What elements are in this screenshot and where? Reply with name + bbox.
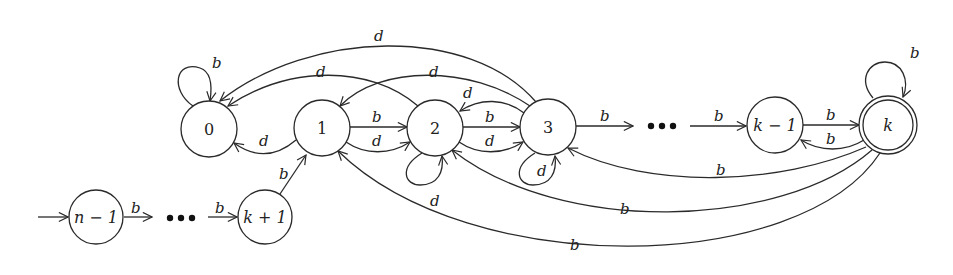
edge-label: b bbox=[910, 44, 920, 62]
edge-label: b bbox=[570, 236, 580, 254]
state-k+1: k + 1 bbox=[238, 190, 292, 244]
state-label: 3 bbox=[543, 118, 553, 137]
edge-label: d bbox=[463, 84, 473, 102]
edge-label: b bbox=[826, 130, 836, 148]
state-label: k bbox=[883, 116, 893, 135]
edge-k-2 bbox=[452, 150, 872, 212]
edge-k-1 bbox=[338, 151, 880, 246]
edge-label: d bbox=[485, 132, 495, 150]
state-k-1: k − 1 bbox=[747, 97, 803, 153]
edge-label: b bbox=[131, 199, 141, 217]
edge-label: b bbox=[600, 107, 610, 125]
state-label: n − 1 bbox=[74, 208, 118, 227]
state-label: 2 bbox=[430, 119, 440, 138]
edge-label: b bbox=[714, 107, 724, 125]
state-k-accepting: k bbox=[859, 96, 917, 154]
automaton-svg: b d d d d b d d b d d d b b b b b b b bbox=[0, 0, 953, 275]
state-0: 0 bbox=[181, 101, 237, 157]
edge-label: d bbox=[429, 63, 439, 81]
edge-label: b bbox=[485, 108, 495, 126]
edge-label: d bbox=[374, 27, 384, 45]
edge-label: d bbox=[259, 132, 269, 150]
state-2: 2 bbox=[407, 100, 463, 156]
edge-3-0 bbox=[220, 46, 536, 102]
state-3: 3 bbox=[520, 99, 576, 155]
edge-label: b bbox=[215, 199, 225, 217]
state-label: 0 bbox=[204, 120, 214, 139]
ellipsis-bottom bbox=[167, 215, 195, 221]
state-label: k + 1 bbox=[243, 208, 286, 227]
edge-label: b bbox=[279, 165, 289, 183]
edge-label: b bbox=[716, 161, 726, 179]
edge-label: b bbox=[212, 54, 222, 72]
state-n-1-initial: n − 1 bbox=[69, 190, 123, 244]
edge-k-k bbox=[866, 62, 906, 98]
edge-label: b bbox=[372, 108, 382, 126]
state-label: 1 bbox=[317, 119, 327, 138]
ellipsis-top bbox=[648, 123, 676, 129]
edge-label: b bbox=[620, 200, 630, 218]
state-1: 1 bbox=[294, 100, 350, 156]
automaton-diagram: b d d d d b d d b d d d b b b b b b b bbox=[0, 0, 953, 275]
edge-label: b bbox=[826, 106, 836, 124]
edge-0-0 bbox=[178, 67, 211, 106]
edge-2-2 bbox=[406, 153, 442, 185]
edge-label: d bbox=[372, 132, 382, 150]
state-label: k − 1 bbox=[753, 116, 796, 135]
edge-label: d bbox=[537, 162, 547, 180]
edge-label: d bbox=[316, 63, 326, 81]
edge-label: d bbox=[430, 192, 440, 210]
